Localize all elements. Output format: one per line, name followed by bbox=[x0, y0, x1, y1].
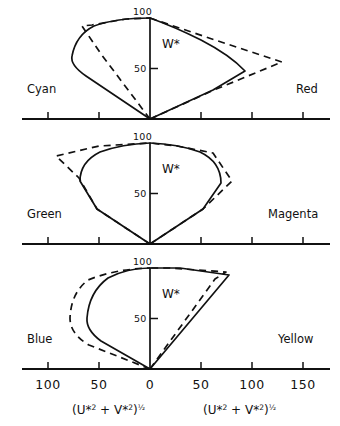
panel2-mid-value: 50 bbox=[134, 188, 147, 199]
panel1-left-label: Cyan bbox=[27, 82, 56, 96]
svg-text:(U*2 + V*2)½: (U*2 + V*2)½ bbox=[203, 403, 276, 417]
panel3-yellow-solid-curve bbox=[150, 268, 229, 369]
x-tick-label-2: 0 bbox=[146, 377, 154, 392]
x-tick-label-1: 50 bbox=[91, 377, 108, 392]
formula-right-half: ½ bbox=[269, 403, 276, 412]
formula-left-open: (U* bbox=[72, 403, 91, 417]
panel2-left-label: Green bbox=[27, 207, 62, 221]
panel2-magenta-solid-curve bbox=[150, 143, 221, 244]
panel1-top-value: 100 bbox=[133, 6, 152, 17]
formula-right-open: (U* bbox=[203, 403, 222, 417]
panel3-yellow-dashed-curve bbox=[150, 268, 226, 369]
panel1-x-ticks bbox=[48, 112, 303, 119]
formula-left-plus: + V* bbox=[96, 403, 128, 417]
axis-formula-right: (U*2 + V*2)½ bbox=[203, 403, 276, 417]
panel2-magenta-dashed-curve bbox=[150, 143, 232, 244]
panel1-w-axis-label: W* bbox=[162, 37, 180, 51]
x-axis-tick-labels: 100 50 0 50 100 150 bbox=[35, 377, 315, 392]
color-gamut-figure: Cyan Red 100 50 W* Green Magenta 100 50 … bbox=[0, 0, 340, 426]
axis-formula-left: (U*2 + V*2)½ bbox=[72, 403, 145, 417]
x-tick-label-3: 50 bbox=[193, 377, 210, 392]
panel-green-magenta: Green Magenta 100 50 W* bbox=[22, 131, 330, 244]
x-tick-label-5: 150 bbox=[290, 377, 315, 392]
panel-blue-yellow: Blue Yellow 100 50 W* bbox=[22, 256, 330, 369]
panel2-right-label: Magenta bbox=[268, 207, 318, 221]
panel2-w-axis-label: W* bbox=[162, 162, 180, 176]
panel3-mid-value: 50 bbox=[134, 313, 147, 324]
panel1-red-dashed-curve bbox=[150, 18, 282, 119]
x-tick-label-4: 100 bbox=[239, 377, 264, 392]
svg-text:(U*2 + V*2)½: (U*2 + V*2)½ bbox=[72, 403, 145, 417]
panel1-right-label: Red bbox=[296, 82, 318, 96]
panel-cyan-red: Cyan Red 100 50 W* bbox=[22, 6, 330, 119]
panel3-left-label: Blue bbox=[27, 332, 52, 346]
formula-right-plus: + V* bbox=[227, 403, 259, 417]
panel3-right-label: Yellow bbox=[277, 332, 313, 346]
formula-left-half: ½ bbox=[138, 403, 145, 412]
x-tick-label-0: 100 bbox=[35, 377, 60, 392]
panel2-top-value: 100 bbox=[133, 131, 152, 142]
panel2-x-ticks bbox=[48, 237, 303, 244]
panel3-x-ticks bbox=[48, 362, 303, 369]
panel3-top-value: 100 bbox=[133, 256, 152, 267]
panel1-red-solid-curve bbox=[150, 18, 245, 119]
panel1-mid-value: 50 bbox=[134, 63, 147, 74]
panel3-w-axis-label: W* bbox=[162, 287, 180, 301]
